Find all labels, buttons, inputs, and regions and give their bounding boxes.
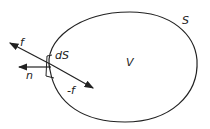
force-arrow-f <box>10 43 52 65</box>
label-s: S <box>182 14 189 27</box>
label-f: f <box>20 36 26 49</box>
label-n: n <box>26 69 33 82</box>
surface-outline <box>49 12 197 122</box>
label-v: V <box>126 56 135 69</box>
label-ds: dS <box>55 49 69 62</box>
label-negative-f: -f <box>67 84 77 97</box>
diagram: f n dS -f V S <box>0 0 210 129</box>
